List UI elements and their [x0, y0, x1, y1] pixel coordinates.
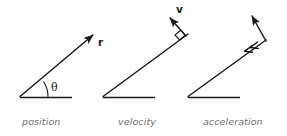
panel-caption-position: position	[22, 117, 60, 127]
angle-arc-icon	[44, 82, 49, 97]
panel-caption-velocity: velocity	[118, 117, 156, 127]
angle-theta-label: θ	[51, 81, 58, 94]
panel-position: θ r	[20, 35, 104, 98]
physics-vector-figure: θ r v position velocity acceleration	[0, 0, 287, 136]
panel-caption-acceleration: acceleration	[203, 117, 263, 127]
right-angle-marker-icon	[175, 30, 185, 40]
panel-velocity: v	[103, 3, 188, 98]
position-vector-label: r	[98, 36, 104, 48]
velocity-radius-line	[103, 34, 188, 97]
tangential-acceleration-arrow	[252, 16, 266, 41]
velocity-vector-label: v	[176, 3, 183, 15]
panel-acceleration	[188, 16, 266, 98]
